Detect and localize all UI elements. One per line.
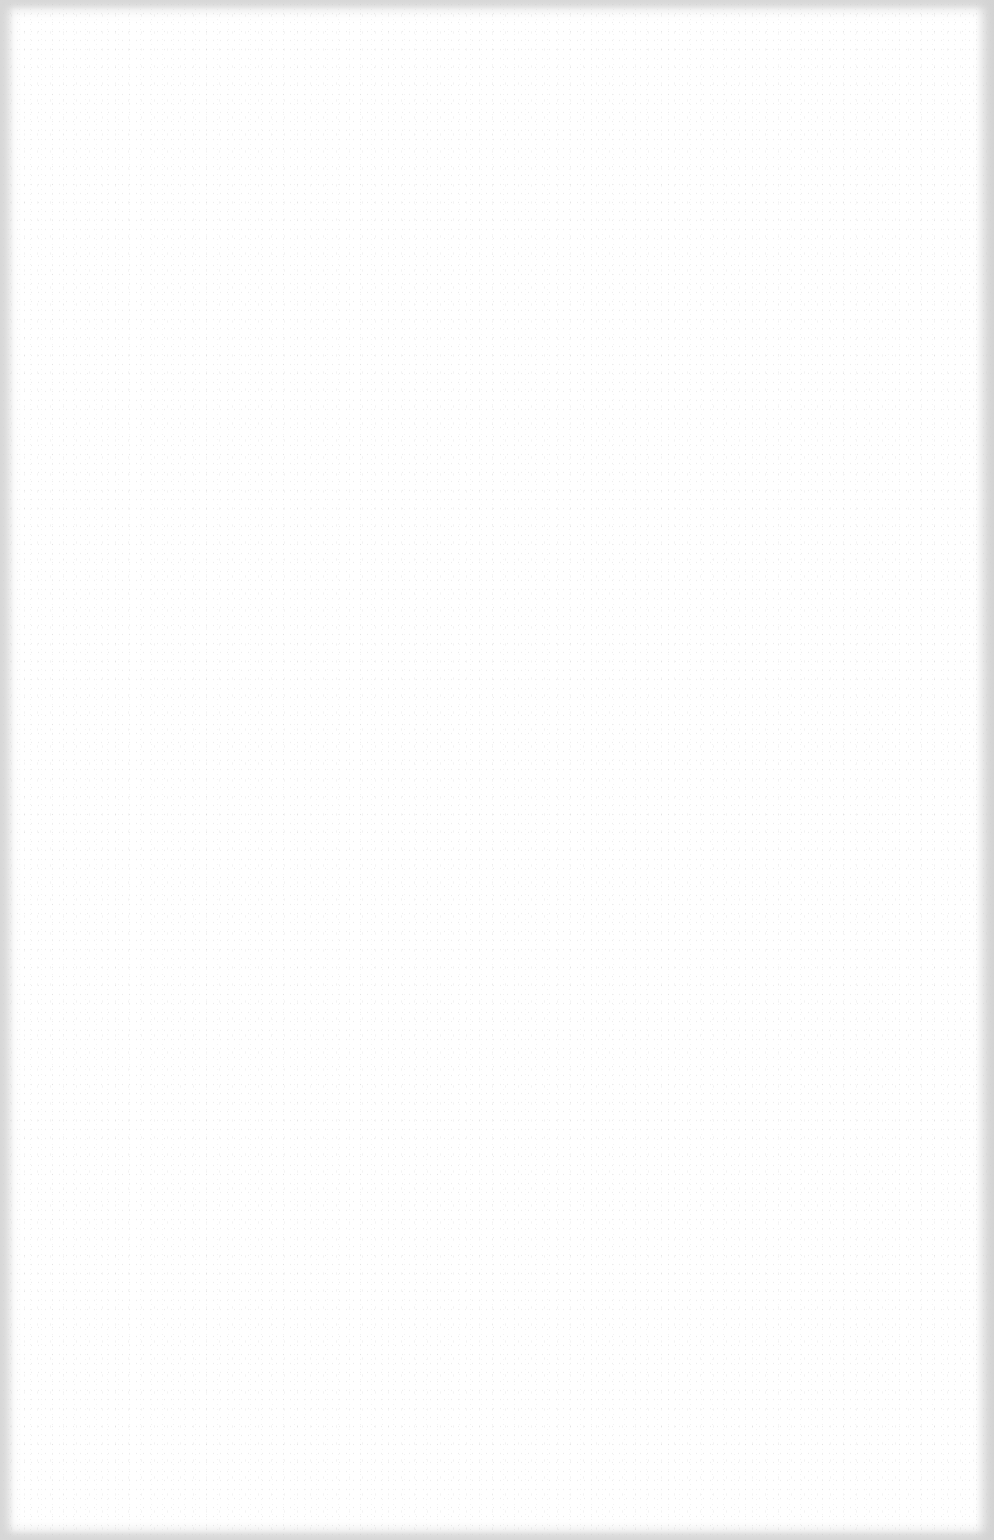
page-content — [40, 40, 954, 1500]
page-edge-left — [0, 0, 14, 1540]
page-edge-bottom — [0, 1530, 994, 1540]
page-edge-right — [976, 0, 994, 1540]
blank-page — [0, 0, 994, 1540]
page-edge-top — [0, 0, 994, 10]
